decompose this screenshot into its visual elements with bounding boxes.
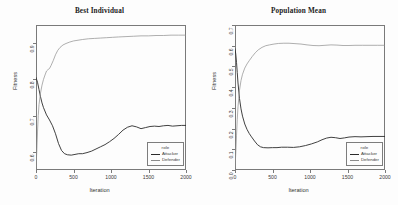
- y-tick-label: 0.4: [228, 87, 234, 99]
- legend[interactable]: role Attacker Defender: [147, 142, 184, 167]
- legend-swatch-defender: [350, 160, 359, 161]
- x-tick-label: 1500: [136, 174, 162, 180]
- x-tick-mark: [186, 170, 187, 173]
- panel-population-mean: Population Mean Fitness Iteration role A…: [199, 0, 398, 205]
- panel-title: Population Mean: [199, 7, 398, 15]
- y-tick-label: 0.7: [29, 116, 35, 128]
- y-tick-label: 0.6: [228, 46, 234, 58]
- panel-best-individual: Best Individual Fitness Iteration role A…: [0, 0, 199, 205]
- x-tick-label: 0: [222, 174, 248, 180]
- y-tick-label: 0.7: [228, 25, 234, 37]
- legend-title: role: [350, 145, 379, 150]
- y-tick-label: 0.5: [228, 66, 234, 78]
- y-tick-label: 0.9: [29, 43, 35, 55]
- legend-swatch-attacker: [151, 154, 160, 155]
- figure-canvas: Best Individual Fitness Iteration role A…: [0, 0, 398, 205]
- x-tick-mark: [310, 170, 311, 173]
- plot-area: role Attacker Defender: [36, 25, 186, 170]
- x-tick-label: 2000: [173, 174, 199, 180]
- legend-swatch-defender: [151, 160, 160, 161]
- x-tick-mark: [74, 170, 75, 173]
- x-tick-mark: [149, 170, 150, 173]
- legend-label-defender: Defender: [361, 157, 379, 163]
- x-tick-label: 1500: [335, 174, 361, 180]
- x-tick-mark: [385, 170, 386, 173]
- series-line-attacker: [235, 49, 385, 148]
- y-tick-label: 0.8: [29, 79, 35, 91]
- y-tick-label: 0.1: [228, 149, 234, 161]
- x-tick-mark: [111, 170, 112, 173]
- x-tick-mark: [36, 170, 37, 173]
- y-axis-label: Fitness: [12, 72, 18, 90]
- x-axis-label: Iteration: [199, 187, 398, 193]
- x-tick-label: 0: [23, 174, 49, 180]
- legend[interactable]: role Attacker Defender: [346, 142, 383, 167]
- x-tick-mark: [273, 170, 274, 173]
- x-tick-label: 500: [260, 174, 286, 180]
- panel-title: Best Individual: [0, 7, 199, 15]
- y-tick-label: 0.6: [29, 152, 35, 164]
- legend-item-defender[interactable]: Defender: [350, 157, 379, 163]
- legend-swatch-attacker: [350, 154, 359, 155]
- y-tick-label: 0.3: [228, 108, 234, 120]
- x-tick-label: 1000: [297, 174, 323, 180]
- y-tick-label: 0.2: [228, 129, 234, 141]
- legend-item-defender[interactable]: Defender: [151, 157, 180, 163]
- legend-label-defender: Defender: [162, 157, 180, 163]
- x-tick-label: 500: [61, 174, 87, 180]
- x-tick-label: 1000: [98, 174, 124, 180]
- y-axis-label: Fitness: [211, 72, 217, 90]
- x-tick-mark: [348, 170, 349, 173]
- legend-title: role: [151, 145, 180, 150]
- plot-area: role Attacker Defender: [235, 25, 385, 170]
- x-axis-label: Iteration: [0, 187, 199, 193]
- x-tick-label: 2000: [372, 174, 398, 180]
- x-tick-mark: [235, 170, 236, 173]
